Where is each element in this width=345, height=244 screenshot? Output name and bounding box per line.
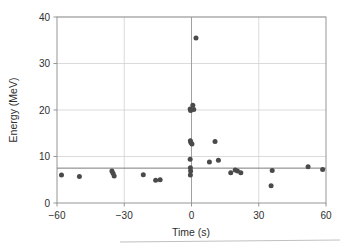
data-point [191,107,196,112]
data-point [213,139,218,144]
data-point [238,170,243,175]
data-point [141,172,146,177]
data-point [306,164,311,169]
data-points [59,35,325,188]
y-tick-label: 40 [39,12,51,23]
data-point [193,35,198,40]
data-point [59,173,64,178]
data-point [189,141,194,146]
x-tick-label: 60 [320,210,332,221]
data-point [190,103,195,108]
data-point [207,160,212,165]
x-axis-ticks: −60−3003060 [49,203,332,221]
data-point [269,183,274,188]
data-point [216,158,221,163]
y-tick-label: 10 [39,151,51,162]
x-tick-label: −30 [116,210,133,221]
data-point [188,173,193,178]
y-tick-label: 30 [39,58,51,69]
x-tick-label: 0 [189,210,195,221]
data-point [153,178,158,183]
data-point [188,157,193,162]
page-bottom-rule [120,240,340,242]
x-tick-label: 30 [253,210,265,221]
plot-canvas: −60−3003060 010203040 Time (s) Energy (M… [0,0,345,244]
scatter-plot-figure: −60−3003060 010203040 Time (s) Energy (M… [0,0,345,244]
x-axis-title: Time (s) [172,226,210,238]
x-tick-label: −60 [49,210,66,221]
data-point [112,174,117,179]
data-point [77,174,82,179]
y-axis-ticks: 010203040 [39,12,57,209]
y-tick-label: 20 [39,105,51,116]
y-tick-label: 0 [44,198,50,209]
data-point [270,168,275,173]
y-axis-title: Energy (MeV) [7,78,19,143]
data-point [228,170,233,175]
data-point [158,177,163,182]
data-point [320,167,325,172]
